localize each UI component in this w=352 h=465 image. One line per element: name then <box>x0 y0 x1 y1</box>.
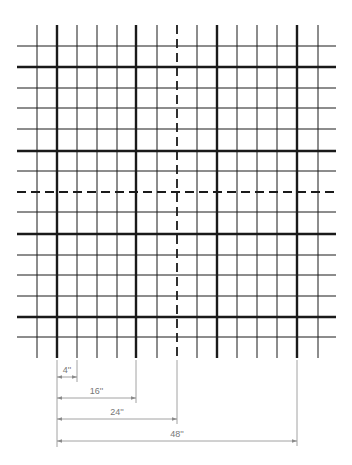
arrow-left-icon <box>57 375 62 379</box>
arrow-left-icon <box>57 417 62 421</box>
grid-lines <box>17 25 336 358</box>
arrow-right-icon <box>131 396 136 400</box>
dimension-2: 24'' <box>57 360 177 424</box>
dimension-label: 4'' <box>63 365 72 375</box>
arrow-right-icon <box>172 417 177 421</box>
grid-diagram: 4''16''24''48'' <box>0 0 352 465</box>
dimension-label: 16'' <box>90 386 104 396</box>
dimension-label: 48'' <box>170 429 184 439</box>
arrow-left-icon <box>57 439 62 443</box>
arrow-right-icon <box>72 375 77 379</box>
dimension-annotations: 4''16''24''48'' <box>57 360 297 447</box>
arrow-right-icon <box>292 439 297 443</box>
dimension-label: 24'' <box>110 407 124 417</box>
dimension-0: 4'' <box>57 360 77 382</box>
arrow-left-icon <box>57 396 62 400</box>
